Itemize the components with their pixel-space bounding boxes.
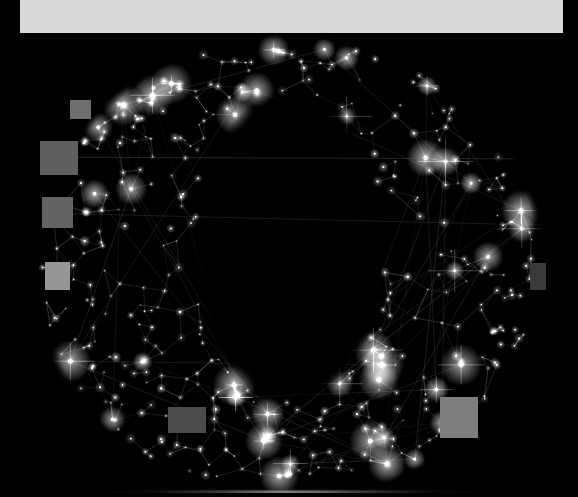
image-canvas [0, 0, 578, 497]
patch-upper-left [40, 141, 78, 175]
patch-mid-left [42, 197, 73, 228]
white-header-band [18, 0, 563, 33]
patch-lower-left [45, 262, 70, 290]
patch-top-left [70, 100, 91, 119]
patch-bottom-center [168, 407, 206, 433]
constellation-render [0, 0, 578, 497]
patch-bottom-right [440, 397, 478, 438]
patch-right-edge [530, 263, 546, 290]
